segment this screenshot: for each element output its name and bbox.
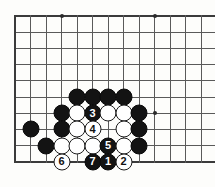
move-number-label: 1 <box>105 156 111 167</box>
grid-line-vertical <box>170 15 171 163</box>
star-point <box>153 111 157 115</box>
move-number-label: 4 <box>89 123 95 134</box>
stone-white-move-2: 2 <box>115 153 132 170</box>
move-number-label: 2 <box>120 156 126 167</box>
stone-white <box>100 105 117 122</box>
stone-white <box>115 105 132 122</box>
stone-black <box>69 89 86 106</box>
stone-black <box>38 137 55 154</box>
grid-line-vertical <box>201 15 202 163</box>
stone-black-move-5: 5 <box>100 137 117 154</box>
grid-line-vertical <box>30 15 31 163</box>
stone-white <box>69 121 86 138</box>
move-number-label: 7 <box>89 156 95 167</box>
stone-black <box>53 121 70 138</box>
stone-white <box>84 137 101 154</box>
grid-line-vertical <box>14 15 16 163</box>
stone-black-move-1: 1 <box>100 153 117 170</box>
stone-black <box>53 105 70 122</box>
stone-white <box>53 137 70 154</box>
stone-white-move-6: 6 <box>53 153 70 170</box>
stone-white <box>69 105 86 122</box>
stone-black <box>131 121 148 138</box>
stone-white <box>115 121 132 138</box>
stone-black-move-7: 7 <box>84 153 101 170</box>
go-board-diagram: 3456712 <box>0 0 215 187</box>
stone-black <box>115 89 132 106</box>
stone-black <box>131 137 148 154</box>
move-number-label: 3 <box>89 107 95 118</box>
stone-black-move-3: 3 <box>84 105 101 122</box>
move-number-label: 6 <box>58 156 64 167</box>
stone-black <box>84 89 101 106</box>
stone-white <box>69 137 86 154</box>
stone-black <box>100 89 117 106</box>
stone-black <box>22 121 39 138</box>
stone-white <box>115 137 132 154</box>
stone-white-move-4: 4 <box>84 121 101 138</box>
move-number-label: 5 <box>105 140 111 151</box>
star-point <box>153 14 157 18</box>
grid-line-vertical <box>185 15 186 163</box>
stone-black <box>131 105 148 122</box>
star-point <box>60 14 64 18</box>
grid-line-vertical <box>154 15 155 163</box>
